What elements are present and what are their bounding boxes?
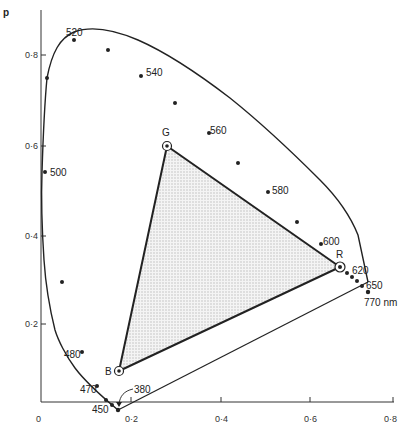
wl-470: 470 bbox=[80, 384, 97, 395]
primary-marker-G bbox=[163, 142, 172, 151]
primary-label-G: G bbox=[162, 127, 170, 138]
wl-600: 600 bbox=[323, 236, 340, 247]
wl-500: 500 bbox=[50, 167, 67, 178]
wl-560: 560 bbox=[210, 125, 227, 136]
x-tick-label-04: 0·4 bbox=[215, 414, 228, 424]
primary-label-B: B bbox=[105, 366, 112, 377]
wl-620: 620 bbox=[352, 265, 369, 276]
gamut-triangle bbox=[119, 146, 340, 371]
primary-label-R: R bbox=[336, 249, 343, 260]
wl-650: 650 bbox=[366, 280, 383, 291]
chromaticity-diagram: p 0·8 0·6 0·4 0·2 0 0·2 0·4 0·6 0·8 bbox=[0, 0, 404, 431]
y-tick-label-08: 0·8 bbox=[25, 50, 38, 60]
wl-520: 520 bbox=[66, 27, 83, 38]
origin-label: 0 bbox=[36, 414, 41, 424]
wl-540: 540 bbox=[146, 67, 163, 78]
primary-marker-B bbox=[115, 367, 124, 376]
wl-450: 450 bbox=[92, 404, 109, 415]
wl-480: 480 bbox=[64, 349, 81, 360]
x-tick-label-06: 0·6 bbox=[304, 414, 317, 424]
x-tick-label-08: 0·8 bbox=[384, 414, 397, 424]
primary-marker-R bbox=[335, 262, 345, 272]
wl-580: 580 bbox=[272, 185, 289, 196]
wl-380: 380 bbox=[134, 384, 151, 395]
y-tick-label-06: 0·6 bbox=[25, 141, 38, 151]
y-tick-label-04: 0·4 bbox=[25, 231, 38, 241]
wl-770: 770 nm bbox=[364, 297, 397, 308]
x-tick-label-02: 0·2 bbox=[125, 414, 138, 424]
y-tick-label-02: 0·2 bbox=[25, 319, 38, 329]
y-axis-label: p bbox=[3, 7, 9, 18]
arrow-head-icon bbox=[116, 402, 122, 407]
